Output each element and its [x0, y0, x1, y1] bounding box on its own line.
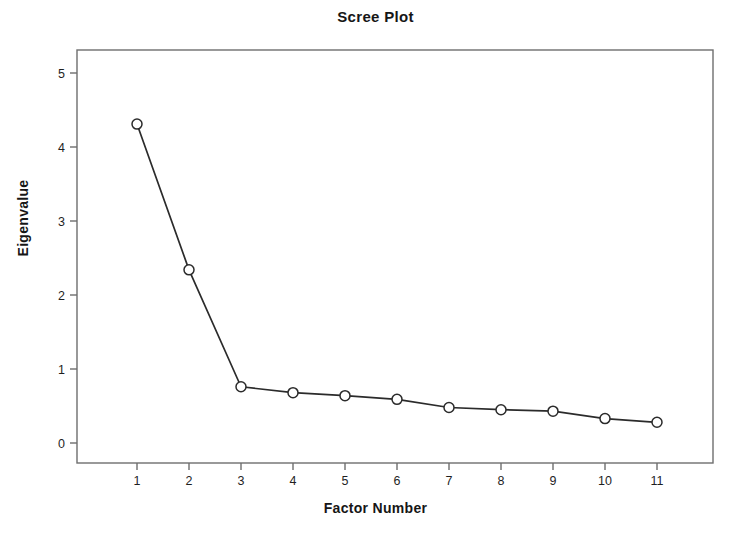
x-tick-label: 11	[651, 474, 664, 488]
y-tick-label: 1	[58, 363, 65, 377]
eigenvalue-line	[137, 124, 657, 422]
scree-plot-figure: Scree Plot Eigenvalue Factor Number 0123…	[0, 0, 751, 538]
data-point-marker	[288, 388, 298, 398]
data-point-marker	[392, 394, 402, 404]
data-point-marker	[600, 414, 610, 424]
data-point-marker	[340, 391, 350, 401]
data-line	[137, 124, 657, 422]
x-axis-ticks: 1234567891011	[134, 463, 664, 488]
y-tick-label: 0	[58, 437, 65, 451]
y-tick-label: 4	[58, 141, 65, 155]
data-point-marker	[184, 265, 194, 275]
y-tick-label: 2	[58, 289, 65, 303]
x-tick-label: 4	[290, 474, 297, 488]
x-tick-label: 2	[186, 474, 193, 488]
x-tick-label: 1	[134, 474, 141, 488]
y-tick-label: 3	[58, 215, 65, 229]
data-point-marker	[652, 417, 662, 427]
data-point-marker	[236, 382, 246, 392]
data-point-marker	[496, 405, 506, 415]
x-tick-label: 5	[342, 474, 349, 488]
data-point-marker	[548, 406, 558, 416]
y-axis-ticks: 012345	[58, 67, 77, 451]
eigenvalue-markers	[132, 119, 662, 427]
x-tick-label: 6	[394, 474, 401, 488]
x-tick-label: 9	[550, 474, 557, 488]
data-point-marker	[132, 119, 142, 129]
x-tick-label: 10	[598, 474, 612, 488]
data-point-marker	[444, 402, 454, 412]
x-tick-label: 8	[498, 474, 505, 488]
plot-area: 012345 1234567891011	[0, 0, 751, 538]
x-tick-label: 3	[238, 474, 245, 488]
y-tick-label: 5	[58, 67, 65, 81]
x-tick-label: 7	[446, 474, 453, 488]
